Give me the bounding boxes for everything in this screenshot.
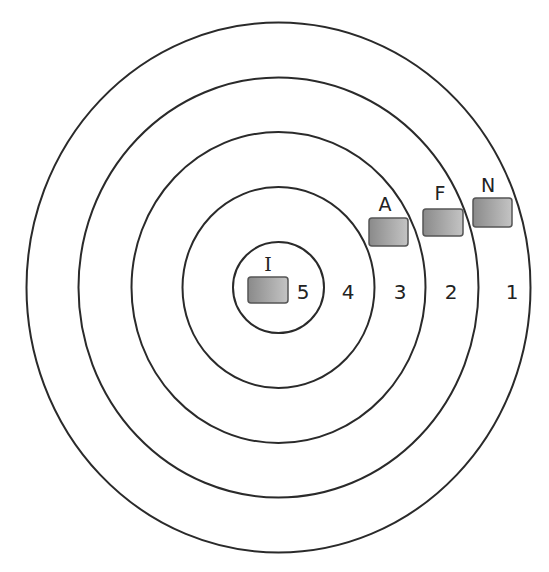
marker-label: A <box>379 193 392 215</box>
marker-label: I <box>264 253 272 275</box>
marker-a: A <box>369 193 408 246</box>
marker-box <box>423 209 463 236</box>
marker-box <box>473 198 512 227</box>
marker-f: F <box>423 182 463 236</box>
zone-labels-group: 54321 <box>297 280 519 304</box>
marker-n: N <box>473 174 512 227</box>
zone-number-5: 5 <box>297 280 310 304</box>
zone-number-2: 2 <box>445 280 458 304</box>
zone-number-1: 1 <box>506 280 519 304</box>
zone-number-4: 4 <box>342 280 355 304</box>
zone-number-3: 3 <box>394 280 407 304</box>
marker-box <box>369 218 408 246</box>
marker-label: N <box>481 174 495 196</box>
marker-label: F <box>435 182 446 204</box>
target-diagram: 54321 IAFN <box>0 0 549 572</box>
marker-box <box>248 277 288 303</box>
marker-i: I <box>248 253 288 303</box>
